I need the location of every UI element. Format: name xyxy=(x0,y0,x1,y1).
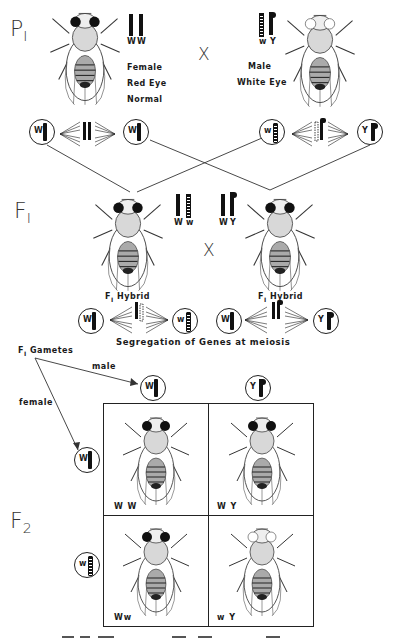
punnett-male-gamete-W: W xyxy=(140,375,166,401)
chromosome-x-w xyxy=(259,13,264,37)
chromosome-y xyxy=(269,15,273,35)
genotype-label: w xyxy=(259,37,267,46)
segregation-caption: Segregation of Genes at meiosis xyxy=(116,337,290,347)
punnett-cell-genotype: W W xyxy=(114,502,137,511)
punnett-cell-genotype: w Y xyxy=(217,613,236,622)
chromosome-x-W xyxy=(176,194,180,216)
parent-male-sex: Male xyxy=(248,62,272,71)
genotype-label: Y xyxy=(270,37,276,46)
gamete-p1-male-w: w xyxy=(259,119,285,145)
parent-female-wing: Normal xyxy=(127,95,163,104)
fly-f1-female-hybrid xyxy=(88,190,168,295)
genotype-label: W xyxy=(219,218,228,227)
chromosome-y-hook xyxy=(269,12,276,18)
genotype-label: W xyxy=(127,37,136,46)
parent-female-sex: Female xyxy=(127,63,162,72)
gamete-f1-female-W: W xyxy=(78,308,104,334)
chromosome-x-w xyxy=(186,194,191,218)
gamete-p1-female-W: W xyxy=(123,119,149,145)
fly-f2-wY-white-male xyxy=(222,520,302,620)
figure-caption-cropped xyxy=(62,636,362,640)
gamete-f1-female-w: w xyxy=(172,308,198,334)
chromosome-x-W xyxy=(221,194,225,216)
fly-f2-WW-red-female xyxy=(116,409,196,509)
genotype-label: W xyxy=(137,37,146,46)
f1-male-label: FI Hybrid xyxy=(258,292,303,303)
punnett-cell-genotype: Ww xyxy=(114,613,132,622)
chromosome-y xyxy=(230,196,234,216)
generation-label-p1: PI xyxy=(10,16,27,44)
chromosome-y-hook xyxy=(230,192,237,198)
fly-f1-male-hybrid xyxy=(240,190,320,295)
f1-gametes-title: FI Gametes xyxy=(18,346,73,357)
chromosome-x-W xyxy=(139,14,143,36)
punnett-female-gamete-w: w xyxy=(74,552,100,578)
punnett-square: W W W Y Ww w Y xyxy=(103,403,314,627)
genotype-label: W xyxy=(174,218,183,227)
cross-symbol: X xyxy=(203,240,215,260)
chromosome-x-W xyxy=(129,14,133,36)
punnett-male-gamete-Y: Y xyxy=(245,375,271,401)
gamete-p1-female-W: W xyxy=(29,119,55,145)
punnett-female-gamete-W: W xyxy=(74,447,100,473)
male-arrow-label: male xyxy=(92,362,116,371)
generation-label-f1: FI xyxy=(14,198,31,226)
genotype-label: w xyxy=(186,218,194,227)
parent-female-eye: Red Eye xyxy=(127,79,167,88)
fly-f2-WY-red-male xyxy=(222,409,302,509)
gamete-f1-male-W: W xyxy=(216,308,242,334)
fly-p1-female-red-eye xyxy=(45,4,125,109)
f1-female-label: FI Hybrid xyxy=(105,292,150,303)
female-arrow-label: female xyxy=(19,398,53,407)
gamete-f1-male-Y: Y xyxy=(313,308,339,334)
fly-f2-Ww-red-female xyxy=(116,520,196,620)
generation-label-f2: F2 xyxy=(10,508,32,536)
punnett-cell-genotype: W Y xyxy=(217,502,237,511)
genotype-label: Y xyxy=(230,218,236,227)
fly-p1-male-white-eye xyxy=(280,6,360,111)
gamete-p1-male-Y: Y xyxy=(357,119,383,145)
cross-symbol: X xyxy=(198,44,210,64)
